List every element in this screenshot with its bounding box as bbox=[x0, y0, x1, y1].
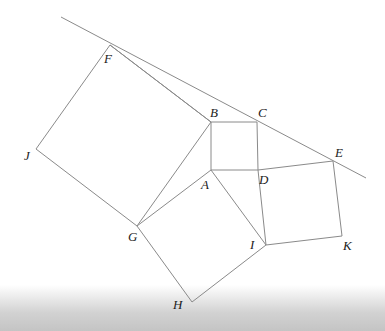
label-i: I bbox=[249, 237, 255, 252]
label-f: F bbox=[103, 51, 113, 66]
label-c: C bbox=[258, 105, 267, 120]
geometry-diagram: F B C E J A D G I K H bbox=[0, 0, 385, 331]
label-a: A bbox=[200, 177, 209, 192]
label-d: D bbox=[258, 172, 269, 187]
label-g: G bbox=[128, 229, 138, 244]
label-k: K bbox=[342, 238, 353, 253]
line-through-fce bbox=[61, 17, 366, 178]
label-h: H bbox=[172, 297, 183, 312]
label-b: B bbox=[210, 105, 218, 120]
square-deki bbox=[258, 161, 342, 245]
square-abcd bbox=[211, 122, 258, 170]
label-e: E bbox=[334, 145, 343, 160]
label-j: J bbox=[24, 148, 31, 163]
square-fbgj bbox=[36, 45, 211, 226]
